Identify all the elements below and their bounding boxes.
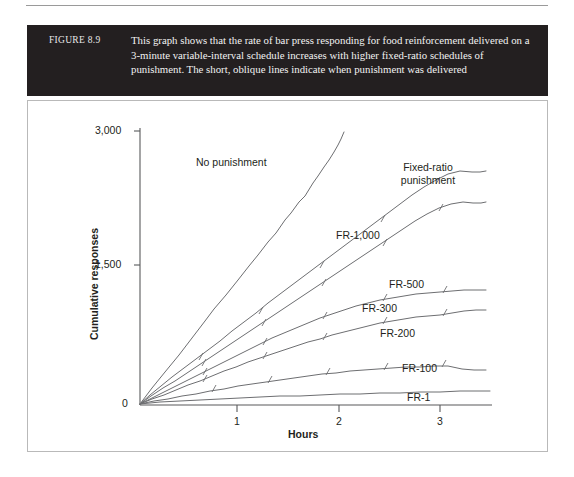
- series-label-fr-100: FR-100: [402, 362, 437, 375]
- series-label-no-punishment: No punishment: [196, 156, 267, 169]
- x-tick-label-3: 3: [437, 415, 443, 427]
- y-tick-label-0: 0: [122, 397, 128, 409]
- figure-caption-band: FIGURE 8.9 This graph shows that the rat…: [27, 25, 548, 96]
- top-rule-divider: [26, 5, 548, 6]
- plot-panel: [27, 100, 548, 452]
- series-label-fr-1: FR-1: [407, 391, 430, 404]
- figure-caption-text: This graph shows that the rate of bar pr…: [131, 33, 531, 77]
- series-label-fr-500: FR-500: [389, 278, 424, 291]
- series-label-fr-1000: FR-1,000: [336, 229, 380, 242]
- series-label-fr-200: FR-200: [380, 327, 415, 340]
- series-label-fr-300: FR-300: [362, 302, 397, 315]
- x-tick-label-2: 2: [336, 415, 342, 427]
- x-axis-title: Hours: [288, 428, 318, 440]
- y-tick-label-3000: 3,000: [95, 124, 121, 136]
- series-label-fixed-ratio-punishment: Fixed-ratio punishment: [390, 161, 466, 186]
- figure-root: FIGURE 8.9 This graph shows that the rat…: [0, 0, 574, 477]
- figure-number-label: FIGURE 8.9: [49, 35, 101, 45]
- fixed-ratio-punishment-line2: punishment: [401, 174, 455, 186]
- fixed-ratio-punishment-line1: Fixed-ratio: [403, 161, 453, 173]
- y-axis-title: Cumulative responses: [88, 228, 100, 340]
- x-tick-label-1: 1: [234, 415, 240, 427]
